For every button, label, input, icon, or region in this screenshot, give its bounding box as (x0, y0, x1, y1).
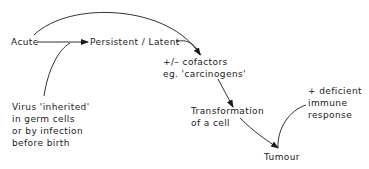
node-cofactors-line1: +/– cofactors (163, 56, 228, 68)
node-persistent-latent: Persistent / Latent (90, 36, 180, 48)
node-virus-line1: Virus 'inherited' (12, 101, 90, 113)
node-virus-line4: before birth (12, 137, 70, 149)
node-immune-line3: response (308, 109, 352, 121)
node-transformation-line2: of a cell (191, 117, 230, 129)
node-acute: Acute (11, 36, 39, 48)
arrow-cofactors-to-transformation (218, 79, 233, 107)
arrow-acute-to-cofactors (34, 12, 200, 55)
node-cofactors-line2: eg. 'carcinogens' (163, 68, 246, 80)
node-virus-line2: in germ cells (12, 113, 75, 125)
arrow-immune-to-tumour (278, 105, 306, 148)
arrow-virus-to-persistent (44, 43, 70, 96)
node-transformation-line1: Transformation (191, 105, 264, 117)
arrow-transformation-to-tumour (240, 118, 278, 148)
node-virus-line3: or by infection (12, 125, 83, 137)
node-immune-line2: immune (308, 97, 347, 109)
node-tumour: Tumour (264, 151, 300, 163)
node-immune-line1: + deficient (308, 85, 362, 97)
